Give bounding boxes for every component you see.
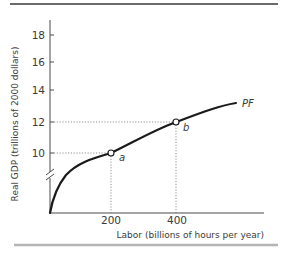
x-axis-title: Labor (billions of hours per year) (117, 230, 264, 240)
y-tick-14: 14 (32, 84, 46, 96)
y-tick-18: 18 (32, 29, 45, 41)
point-b-label: b (183, 122, 189, 133)
x-tick-400: 400 (167, 214, 187, 226)
curve-label-pf: PF (242, 98, 254, 109)
y-axis-title: Real GDP (trillions of 2000 dollars) (10, 47, 20, 202)
y-ticks (50, 35, 54, 153)
point-b-marker (173, 119, 179, 125)
production-function-chart: Real GDP (trillions of 2000 dollars) 18 … (0, 0, 283, 253)
guide-lines (54, 122, 176, 213)
y-tick-12: 12 (32, 116, 45, 128)
point-a-marker (108, 150, 114, 156)
y-tick-16: 16 (32, 56, 46, 68)
point-a-label: a (119, 152, 125, 163)
y-tick-10: 10 (32, 147, 45, 159)
x-tick-200: 200 (101, 214, 121, 226)
pf-curve (50, 103, 236, 213)
